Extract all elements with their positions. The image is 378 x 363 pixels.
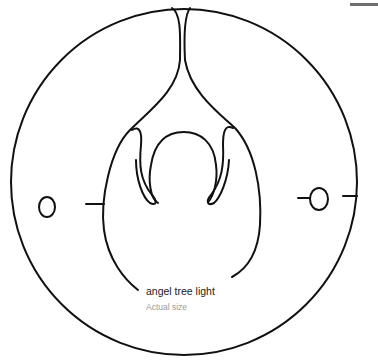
right-hanger-hole — [310, 188, 328, 210]
left-hanger-hole — [39, 197, 55, 217]
size-caption: Actual size — [146, 302, 187, 312]
angel-tree-light-template — [0, 0, 378, 363]
product-title: angel tree light — [146, 285, 215, 297]
right-arm — [208, 127, 233, 204]
head-arch — [150, 132, 217, 203]
